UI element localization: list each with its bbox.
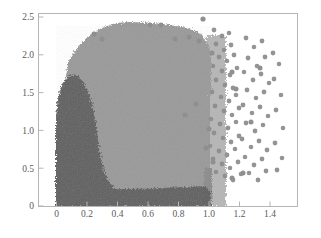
y-tick-label: 0.5 [22, 164, 34, 174]
x-tick-label: 1.0 [203, 209, 215, 219]
y-tick-label: 2.5 [22, 12, 34, 22]
outlier-point [187, 35, 192, 40]
y-tick-label: 1.5 [22, 88, 34, 98]
outlier-point [230, 70, 235, 75]
outlier-point [100, 37, 105, 42]
outlier-point [210, 51, 215, 56]
outlier-point [241, 171, 246, 176]
y-tick-label: 0 [29, 201, 34, 211]
y-tick-label: 2.0 [22, 50, 34, 60]
outlier-point [258, 66, 263, 71]
x-tick-label: 1.2 [234, 209, 246, 219]
outlier-point [197, 39, 202, 44]
outlier-point [249, 120, 254, 125]
x-tick-label: 0.6 [142, 209, 154, 219]
outlier-point [194, 102, 199, 107]
outlier-point [230, 176, 235, 181]
y-tick-label: 1.0 [22, 126, 34, 136]
x-tick-label: 0 [54, 209, 59, 219]
outlier-point [200, 16, 205, 21]
outlier-point [183, 113, 188, 118]
outlier-point [159, 23, 164, 28]
x-tick-label: 0.2 [81, 209, 93, 219]
outlier-point [207, 127, 212, 132]
y-axis-tick-labels: 0 0.5 1.0 1.5 2.0 2.5 [22, 12, 34, 211]
outlier-point [92, 32, 97, 37]
cloud-grain-overlay [56, 26, 212, 206]
outlier-point [204, 146, 209, 151]
x-tick-label: 1.4 [264, 209, 276, 219]
x-tick-label: 0.8 [173, 209, 185, 219]
outlier-point [211, 160, 216, 165]
x-tick-label: 0.4 [112, 209, 124, 219]
plot-canvas: 0 0.2 0.4 0.6 0.8 1.0 1.2 1.4 0 0.5 1.0 … [0, 0, 321, 238]
outlier-point [173, 37, 178, 42]
outlier-point [234, 87, 239, 92]
scatter-plot-figure: 0 0.2 0.4 0.6 0.8 1.0 1.2 1.4 0 0.5 1.0 … [0, 0, 321, 238]
outlier-point [148, 23, 153, 28]
x-axis-tick-labels: 0 0.2 0.4 0.6 0.8 1.0 1.2 1.4 [54, 209, 276, 219]
